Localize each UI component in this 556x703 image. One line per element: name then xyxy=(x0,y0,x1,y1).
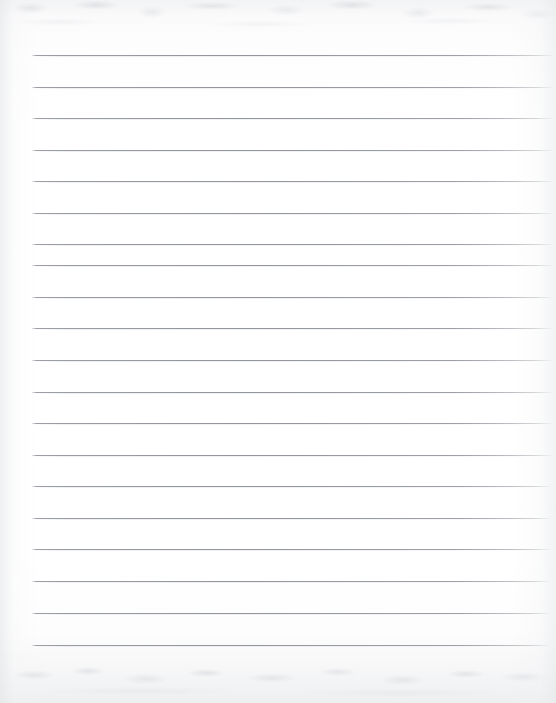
paper-background xyxy=(0,0,556,703)
scanned-paper-page xyxy=(0,0,556,703)
